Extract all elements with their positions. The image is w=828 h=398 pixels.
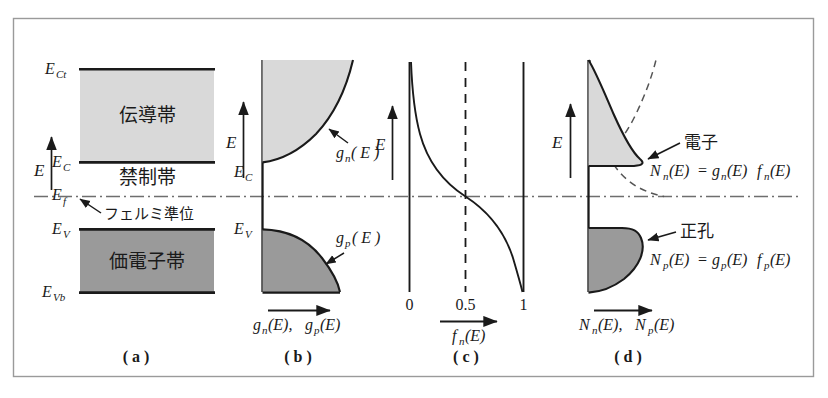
panel-b-level-label-ec: E C	[233, 163, 253, 183]
panel-b-caption: ( b )	[284, 348, 312, 366]
gn-label-main: g	[336, 144, 344, 162]
panel-b-ev-main: E	[233, 220, 244, 237]
level-label-ef: E f	[51, 186, 68, 207]
level-label-ec-main: E	[51, 153, 62, 170]
panel-d-xlabel-n1: N	[578, 316, 591, 333]
electron-eq-lhs: N	[649, 162, 662, 179]
electron-eq-f: f	[757, 162, 764, 180]
panel-d-xlabel-n2: N	[634, 316, 647, 333]
band-diagram-figure: E E Ct E C E f E V E Vb 伝導帯	[0, 0, 828, 398]
gp-label-leader	[326, 253, 344, 264]
panel-b-xlabel-g2: g	[305, 316, 313, 334]
gp-label-main: g	[336, 229, 344, 247]
level-label-evb-main: E	[41, 283, 52, 300]
panel-b-ev-sub: V	[245, 228, 253, 240]
panel-b-ec-sub: C	[245, 171, 253, 183]
hole-annotation-leader	[648, 232, 676, 240]
level-label-ec-sub: C	[63, 161, 71, 173]
electron-eq-lhs-arg: (E)	[669, 162, 689, 180]
level-label-ef-main: E	[51, 186, 62, 203]
panel-b-energy-axis-label: E	[225, 133, 237, 152]
panel-b-ec-main: E	[233, 163, 244, 180]
hole-equation: N p (E) = g p (E) f p (E)	[649, 251, 790, 271]
panel-b-level-label-ev: E V	[233, 220, 253, 240]
panel-b-x-axis-label: g n (E), g p (E)	[253, 316, 340, 336]
panel-a-energy-axis-label: E	[33, 161, 45, 180]
hole-eq-g-sub: p	[720, 259, 727, 271]
panel-d-caption: ( d )	[614, 348, 642, 366]
figure-root: E E Ct E C E f E V E Vb 伝導帯	[0, 0, 828, 398]
panel-b-xlabel-mid: (E),	[268, 316, 292, 334]
level-label-ec: E C	[51, 153, 71, 173]
panel-d-energy-axis-label: E	[551, 133, 563, 152]
panel-c-energy-axis-label: E	[374, 135, 386, 154]
level-label-ev: E V	[51, 220, 71, 240]
gp-label-sub: p	[344, 237, 351, 249]
electron-annotation-label: 電子	[684, 132, 718, 152]
panel-a-caption: ( a )	[123, 348, 150, 366]
hole-annotation-label: 正孔	[680, 221, 714, 241]
valence-band-label: 価電子帯	[109, 250, 185, 272]
level-label-ect-main: E	[44, 60, 55, 77]
electron-eq-g: g	[712, 162, 720, 180]
panel-d-xlabel-end: (E)	[654, 316, 674, 334]
panel-d: E 電子 N n (E) = g n (E) f n (E) 正孔	[551, 60, 790, 366]
panel-c-xlabel-main: f	[452, 327, 459, 345]
electron-eq-equals: =	[698, 162, 707, 179]
fermi-annotation-leader	[80, 199, 101, 213]
hole-eq-lhs-arg: (E)	[669, 251, 689, 269]
hole-eq-f-arg: (E)	[770, 251, 790, 269]
level-label-ev-sub: V	[63, 228, 71, 240]
panel-c-x-axis-label: f n (E)	[452, 327, 485, 347]
panel-c: E 0 0.5 1 f n (E) ( c )	[374, 62, 528, 366]
hole-distribution-region	[589, 228, 643, 293]
panel-b-xlabel-end: (E)	[320, 316, 340, 334]
level-label-ect-sub: Ct	[56, 68, 67, 80]
hole-eq-f: f	[757, 251, 764, 269]
level-label-ect: E Ct	[44, 60, 67, 80]
gn-curve-label: g n ( E )	[336, 144, 379, 164]
level-label-evb: E Vb	[41, 283, 66, 303]
hole-eq-g: g	[712, 251, 720, 269]
panel-b-xlabel-sub2: p	[313, 324, 320, 336]
panel-d-xlabel-mid: (E),	[598, 316, 622, 334]
electron-eq-f-arg: (E)	[770, 162, 790, 180]
hole-eq-lhs: N	[649, 251, 662, 268]
fermi-annotation-label: フェルミ準位	[104, 205, 194, 223]
hole-eq-f-sub: p	[763, 259, 770, 271]
panel-c-xlabel-arg: (E)	[465, 327, 485, 345]
hole-eq-g-arg: (E)	[727, 251, 747, 269]
panel-c-tick-0: 0	[406, 296, 414, 313]
panel-a: E E Ct E C E f E V E Vb 伝導帯	[33, 60, 215, 366]
panel-c-tick-1: 1	[520, 296, 528, 313]
gp-curve-label: g p ( E )	[336, 229, 380, 249]
conduction-band-label: 伝導帯	[119, 104, 176, 126]
gp-label-arg: ( E )	[352, 229, 380, 247]
fermi-dirac-curve	[411, 62, 523, 292]
electron-eq-g-arg: (E)	[727, 162, 747, 180]
hole-eq-lhs-sub: p	[662, 259, 669, 271]
panel-b-xlabel-g1: g	[253, 316, 261, 334]
level-label-ev-main: E	[51, 220, 62, 237]
electron-equation: N n (E) = g n (E) f n (E)	[649, 162, 790, 182]
panel-d-x-axis-label: N n (E), N p (E)	[578, 316, 674, 336]
panel-c-caption: ( c )	[453, 348, 479, 366]
panel-b: E E C E V g n ( E ) g p ( E )	[225, 60, 380, 366]
panel-c-tick-05: 0.5	[456, 296, 476, 313]
forbidden-band-label: 禁制帯	[119, 166, 176, 188]
hole-eq-equals: =	[698, 251, 707, 268]
level-label-evb-sub: Vb	[53, 291, 66, 303]
gn-label-leader	[329, 129, 348, 143]
panel-d-xlabel-sub2: p	[647, 324, 654, 336]
electron-annotation-leader	[648, 143, 680, 159]
